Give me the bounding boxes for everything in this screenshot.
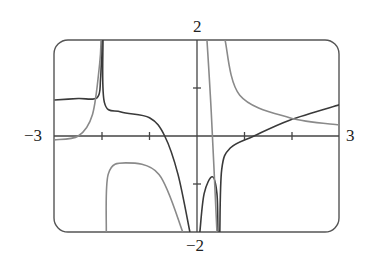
dark-curve-segment [55, 40, 103, 100]
light-curve-segment [225, 40, 339, 125]
y-max-label: 2 [193, 18, 202, 35]
light-curve-segment [55, 40, 102, 140]
light-curve-segment [106, 163, 183, 232]
x-max-label: 3 [346, 127, 355, 144]
y-min-label: −2 [186, 237, 204, 254]
x-min-label: −3 [24, 127, 42, 144]
axes [54, 40, 339, 232]
